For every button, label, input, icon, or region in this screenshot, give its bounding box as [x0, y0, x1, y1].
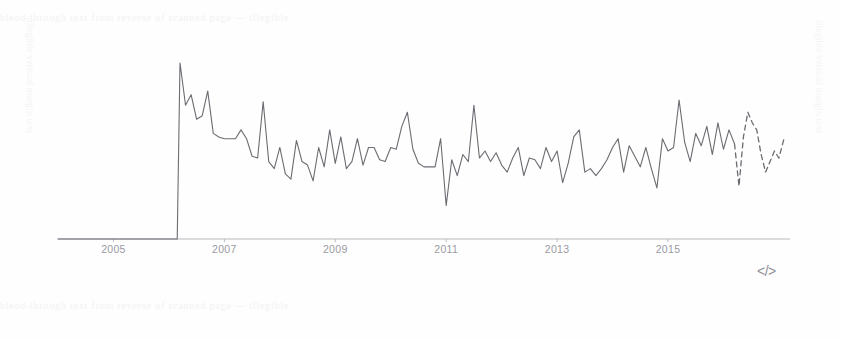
x-axis-tick-label: 2015	[656, 243, 681, 255]
x-axis-tick-label: 2007	[212, 243, 237, 255]
chart-svg: 200520072009201120132015	[0, 0, 841, 339]
scanned-chart-page: bleed-through text from reverse of scann…	[0, 0, 841, 339]
series-line-observed	[58, 63, 735, 239]
line-chart: 200520072009201120132015	[0, 0, 841, 339]
x-axis-tick-label: 2011	[434, 243, 458, 255]
x-axis-tick-labels: 200520072009201120132015	[101, 243, 680, 255]
series-line-projected	[735, 112, 785, 186]
x-axis-tick-label: 2013	[545, 243, 570, 255]
code-embed-icon[interactable]: </>	[757, 263, 776, 279]
x-axis-tick-label: 2009	[323, 243, 348, 255]
x-axis-tick-label: 2005	[101, 243, 126, 255]
